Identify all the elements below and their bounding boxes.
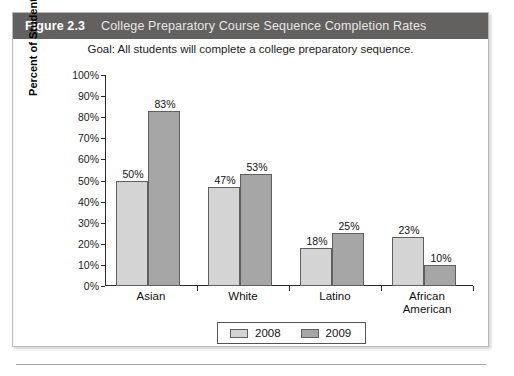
y-axis-tick-label: 80% bbox=[49, 111, 99, 123]
legend-swatch-2008 bbox=[230, 329, 248, 338]
bar-group: 50%83% bbox=[105, 75, 197, 286]
y-axis-tick-label: 70% bbox=[49, 132, 99, 144]
bar-2008-white[interactable]: 47% bbox=[208, 187, 240, 286]
legend-item-2008[interactable]: 2008 bbox=[230, 327, 281, 339]
legend-swatch-2009 bbox=[301, 329, 319, 338]
bar-2008-latino[interactable]: 18% bbox=[300, 248, 332, 286]
bar-group: 47%53% bbox=[197, 75, 289, 286]
bar-value-label: 25% bbox=[326, 220, 372, 232]
figure-header-band: Figure 2.3 College Preparatory Course Se… bbox=[13, 13, 488, 39]
bar-group: 23%10% bbox=[381, 75, 473, 286]
x-axis-label: AfricanAmerican bbox=[372, 290, 482, 316]
legend-label-2009: 2009 bbox=[326, 327, 352, 339]
y-axis-tick-label: 60% bbox=[49, 153, 99, 165]
bar-value-label: 83% bbox=[142, 98, 188, 110]
bar-group: 18%25% bbox=[289, 75, 381, 286]
figure-title: College Preparatory Course Sequence Comp… bbox=[101, 19, 426, 33]
legend-item-2009[interactable]: 2009 bbox=[301, 327, 352, 339]
goal-statement: Goal: All students will complete a colle… bbox=[13, 43, 488, 55]
y-axis-tick-label: 30% bbox=[49, 217, 99, 229]
bar-2009-african-american[interactable]: 10% bbox=[424, 265, 456, 286]
bar-2009-latino[interactable]: 25% bbox=[332, 233, 364, 286]
y-axis-tick-label: 40% bbox=[49, 196, 99, 208]
chart-legend: 2008 2009 bbox=[217, 322, 366, 344]
bar-chart: Percent of Students 0%10%20%30%40%50%60%… bbox=[13, 57, 490, 315]
bar-2009-white[interactable]: 53% bbox=[240, 174, 272, 286]
legend-label-2008: 2008 bbox=[255, 327, 281, 339]
y-axis-tick-label: 50% bbox=[49, 175, 99, 187]
bar-2009-asian[interactable]: 83% bbox=[148, 111, 180, 286]
y-axis-tick-label: 10% bbox=[49, 259, 99, 271]
y-axis-tick-label: 20% bbox=[49, 238, 99, 250]
figure-frame: Figure 2.3 College Preparatory Course Se… bbox=[12, 12, 489, 347]
y-axis-title: Percent of Students bbox=[27, 0, 39, 119]
y-axis-tick-label: 0% bbox=[49, 280, 99, 292]
y-axis-tick-label: 100% bbox=[49, 69, 99, 81]
y-axis-tick-mark bbox=[101, 286, 105, 287]
y-axis-tick-label: 90% bbox=[49, 90, 99, 102]
plot-area: 0%10%20%30%40%50%60%70%80%90%100% 50%83%… bbox=[105, 75, 473, 286]
bar-2008-asian[interactable]: 50% bbox=[116, 181, 148, 287]
bar-value-label: 23% bbox=[386, 224, 432, 236]
bar-value-label: 53% bbox=[234, 161, 280, 173]
bar-value-label: 10% bbox=[418, 252, 464, 264]
page-divider-rule bbox=[16, 364, 486, 365]
